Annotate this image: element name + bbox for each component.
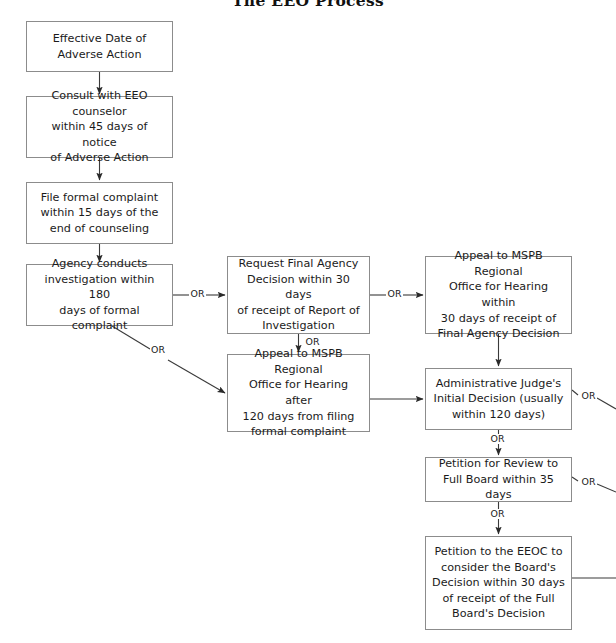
or-label-petition-review-right: OR xyxy=(580,477,597,487)
node-label: File formal complaint within 15 days of … xyxy=(41,190,159,237)
node-file-formal-complaint[interactable]: File formal complaint within 15 days of … xyxy=(26,182,173,244)
flowchart-canvas: The EEO Process xyxy=(0,0,616,643)
or-label-admin-judge-to-petition-review: OR xyxy=(489,434,506,444)
node-label: Effective Date of Adverse Action xyxy=(53,31,146,62)
node-label: Administrative Judge's Initial Decision … xyxy=(434,376,564,423)
node-agency-conducts-investigation[interactable]: Agency conducts investigation within 180… xyxy=(26,264,173,326)
or-label-agency-to-appeal-120: OR xyxy=(150,345,166,355)
node-administrative-judge-initial-decision[interactable]: Administrative Judge's Initial Decision … xyxy=(425,368,572,430)
node-effective-date-of-adverse-action[interactable]: Effective Date of Adverse Action xyxy=(26,21,173,72)
node-label: Petition to the EEOC to consider the Boa… xyxy=(432,544,565,622)
or-label-admin-judge-right: OR xyxy=(580,391,597,401)
node-label: Appeal to MSPB Regional Office for Heari… xyxy=(234,346,363,440)
node-request-final-agency-decision[interactable]: Request Final Agency Decision within 30 … xyxy=(227,256,370,334)
node-appeal-to-mspb-within-30-days[interactable]: Appeal to MSPB Regional Office for Heari… xyxy=(425,256,572,334)
connector-agency-to-appeal-120-b xyxy=(168,360,225,393)
connector-petition-review-offpage-right-a xyxy=(572,477,578,481)
or-label-request-fad-to-appeal-30: OR xyxy=(386,289,403,299)
node-consult-with-eeo-counselor[interactable]: Consult with EEO counselor within 45 day… xyxy=(26,96,173,158)
node-label: Agency conducts investigation within 180… xyxy=(33,256,166,334)
node-label: Consult with EEO counselor within 45 day… xyxy=(33,88,166,166)
node-appeal-to-mspb-after-120-days[interactable]: Appeal to MSPB Regional Office for Heari… xyxy=(227,354,370,432)
connector-petition-review-offpage-right-b xyxy=(597,484,616,492)
page-title: The EEO Process xyxy=(0,0,616,10)
connector-admin-judge-offpage-right-b xyxy=(597,398,616,409)
or-label-agency-to-request-fad: OR xyxy=(189,289,206,299)
or-label-petition-review-to-eeoc: OR xyxy=(489,509,506,519)
node-petition-to-the-eeoc[interactable]: Petition to the EEOC to consider the Boa… xyxy=(425,536,572,630)
node-label: Request Final Agency Decision within 30 … xyxy=(234,256,363,334)
connector-admin-judge-offpage-right-a xyxy=(572,390,578,395)
or-label-request-fad-to-appeal-120: OR xyxy=(304,337,321,347)
node-label: Appeal to MSPB Regional Office for Heari… xyxy=(432,248,565,342)
node-label: Petition for Review to Full Board within… xyxy=(432,456,565,503)
node-petition-for-review-full-board[interactable]: Petition for Review to Full Board within… xyxy=(425,457,572,502)
